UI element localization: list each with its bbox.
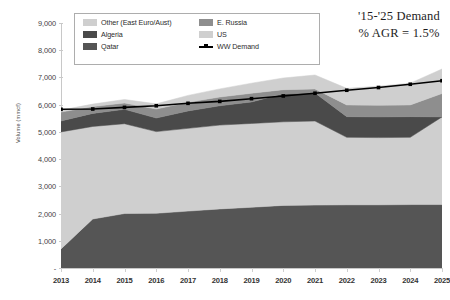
y-axis-tick-label: 1,000 xyxy=(22,236,56,245)
legend-item[interactable]: E. Russia xyxy=(199,18,313,27)
legend-item[interactable]: Algeria xyxy=(83,30,197,39)
x-axis-tick-label: 2022 xyxy=(339,276,355,285)
legend-item-label: Algeria xyxy=(101,30,123,39)
data-point-marker xyxy=(123,106,127,110)
y-axis-tick-label: 5,000 xyxy=(22,127,56,136)
chart-legend: Other (East Euro/Aust)E. RussiaAlgeriaUS… xyxy=(74,13,320,65)
data-point-marker xyxy=(281,94,285,98)
data-point-marker xyxy=(91,107,95,111)
y-axis-tick-label: 3,000 xyxy=(22,182,56,191)
legend-swatch-icon xyxy=(83,43,97,50)
x-axis-tick-label: 2024 xyxy=(402,276,418,285)
y-axis-tick-label: 2,000 xyxy=(22,209,56,218)
legend-item-label: WW Demand xyxy=(217,42,259,51)
legend-item[interactable]: Other (East Euro/Aust) xyxy=(83,18,197,27)
legend-item-label: US xyxy=(217,30,227,39)
y-axis-tick-label: 6,000 xyxy=(22,100,56,109)
data-point-marker xyxy=(186,102,190,106)
legend-swatch-icon xyxy=(83,19,97,26)
legend-line-marker-icon xyxy=(199,43,213,50)
legend-item-label: E. Russia xyxy=(217,18,247,27)
data-point-marker xyxy=(154,104,158,108)
data-point-marker xyxy=(345,88,349,92)
y-axis-tick-label: 9,000 xyxy=(22,19,56,28)
x-axis-labels: 2013201420152016201720182019202020212022… xyxy=(61,272,442,292)
y-axis-title: Volume (mmcf) xyxy=(15,83,21,163)
y-axis-tick-label: 7,000 xyxy=(22,73,56,82)
y-axis-tick-label: 8,000 xyxy=(22,46,56,55)
x-axis-tick-label: 2016 xyxy=(148,276,164,285)
data-point-marker xyxy=(408,82,412,86)
x-axis-tick-label: 2023 xyxy=(370,276,386,285)
legend-swatch-icon xyxy=(199,31,213,38)
legend-item[interactable]: Qatar xyxy=(83,42,197,51)
legend-swatch-icon xyxy=(199,19,213,26)
x-axis-tick-label: 2018 xyxy=(212,276,228,285)
legend-swatch-icon xyxy=(83,31,97,38)
x-axis-tick-label: 2015 xyxy=(116,276,132,285)
legend-item[interactable]: US xyxy=(199,30,313,39)
x-axis-tick-label: 2020 xyxy=(275,276,291,285)
data-point-marker xyxy=(440,79,442,83)
x-axis-tick-label: 2025 xyxy=(434,276,450,285)
x-axis-tick-label: 2019 xyxy=(243,276,259,285)
legend-item[interactable]: WW Demand xyxy=(199,42,313,51)
x-axis-tick xyxy=(442,268,443,272)
y-axis-tick-label: 4,000 xyxy=(22,155,56,164)
y-axis-labels: -1,0002,0003,0004,0005,0006,0007,0008,00… xyxy=(22,16,56,274)
data-point-marker xyxy=(377,86,381,90)
x-axis-tick-label: 2017 xyxy=(180,276,196,285)
x-axis-tick-label: 2021 xyxy=(307,276,323,285)
data-point-marker xyxy=(218,100,222,104)
x-axis-tick-label: 2013 xyxy=(53,276,69,285)
data-point-marker xyxy=(61,107,63,111)
data-point-marker xyxy=(313,91,317,95)
legend-item-label: Other (East Euro/Aust) xyxy=(101,18,172,27)
x-axis-tick-label: 2014 xyxy=(85,276,101,285)
data-point-marker xyxy=(250,97,254,101)
y-axis-tick-label: - xyxy=(22,264,56,273)
legend-item-label: Qatar xyxy=(101,42,118,51)
